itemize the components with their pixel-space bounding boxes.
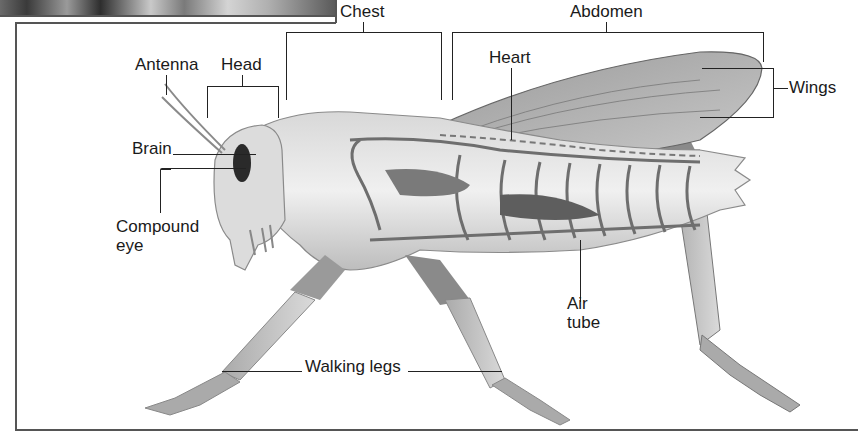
bracket-head: [207, 86, 279, 87]
leader-compound-eye-v: [160, 170, 161, 213]
bracket-head-left: [207, 86, 208, 118]
label-head: Head: [221, 55, 262, 74]
bracket-abdomen-right: [763, 32, 764, 62]
bracket-chest-left: [286, 32, 287, 100]
label-antenna: Antenna: [135, 55, 198, 74]
leader-brain: [173, 154, 256, 155]
label-walking-legs: Walking legs: [305, 357, 401, 376]
leader-heart: [511, 68, 512, 140]
leader-wings-bracket: [773, 68, 774, 118]
label-chest: Chest: [340, 2, 384, 21]
label-heart: Heart: [489, 48, 531, 67]
bracket-head-right: [278, 86, 279, 118]
leader-antenna: [166, 75, 167, 95]
bracket-chest: [286, 32, 442, 33]
leader-walking-legs-left: [222, 371, 302, 372]
compound-eye-shape: [233, 144, 251, 182]
label-air-tube-line2: tube: [567, 313, 600, 332]
head-illustration: [214, 125, 285, 270]
bracket-chest-stem: [363, 22, 364, 32]
leader-air-tube: [580, 240, 581, 302]
leader-compound-eye-h: [170, 168, 246, 169]
bracket-chest-right: [441, 32, 442, 100]
label-compound-eye-line2: eye: [116, 236, 143, 255]
label-air-tube-line1: Air: [567, 294, 588, 313]
bracket-abdomen: [452, 32, 764, 33]
leader-wings-upper: [702, 68, 774, 69]
leader-wings-lower: [700, 117, 774, 118]
bracket-abdomen-stem: [606, 22, 607, 32]
walking-legs-illustration: [145, 255, 570, 425]
bracket-abdomen-left: [452, 32, 453, 100]
leader-wings-stem: [774, 88, 788, 89]
leader-walking-legs-right: [408, 371, 502, 372]
label-wings: Wings: [789, 78, 836, 97]
label-abdomen: Abdomen: [570, 2, 643, 21]
bracket-head-stem: [242, 75, 243, 86]
label-compound-eye-line1: Compound: [116, 217, 199, 236]
label-brain: Brain: [132, 139, 172, 158]
leader-compound-eye-corner: [160, 168, 171, 170]
